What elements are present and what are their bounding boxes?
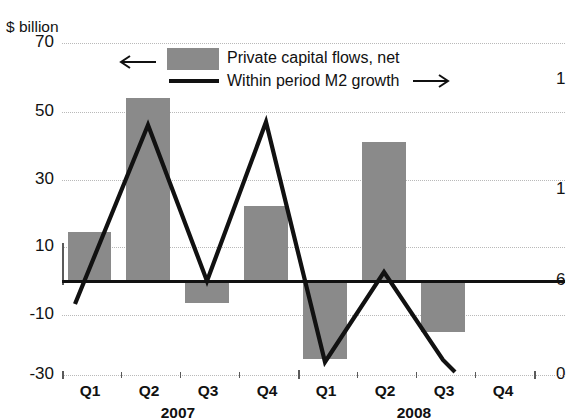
x-tick-1 [121,372,122,378]
legend-right-arrow-icon [411,72,453,90]
x-label-q1-2007: Q1 [66,382,114,400]
x-label-q3-2007: Q3 [184,382,232,400]
x-tick-6 [416,372,417,378]
year-label-2008: 2008 [384,404,444,419]
legend-line-m2-growth [169,79,219,83]
x-label-q4-2007: Q4 [243,382,291,400]
x-label-q3-2008: Q3 [420,382,468,400]
x-tick-end [534,371,536,379]
x-axis-baseline [62,375,565,376]
x-tick-7 [475,372,476,378]
legend-label-m2-growth: Within period M2 growth [227,72,400,90]
legend-left-arrow-icon [118,53,158,71]
chart-container: $ billion 70 50 30 10 -10 -30 1 1 6 0 Q1… [0,0,567,419]
x-tick-start [62,371,64,379]
x-label-q2-2007: Q2 [125,382,173,400]
x-tick-4 [298,370,300,379]
x-label-q2-2008: Q2 [361,382,409,400]
x-label-q1-2008: Q1 [302,382,350,400]
x-label-q4-2008: Q4 [479,382,527,400]
x-tick-5 [357,372,358,378]
x-tick-2 [180,372,181,378]
year-label-2007: 2007 [148,404,208,419]
legend-swatch-private-capital-flows [167,48,219,70]
legend-label-private-capital-flows: Private capital flows, net [227,49,400,67]
x-tick-3 [239,372,240,378]
